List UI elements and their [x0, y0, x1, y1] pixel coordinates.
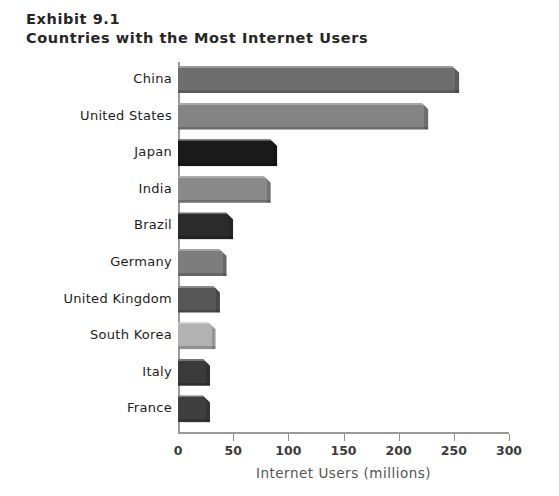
bar-right-edge [424, 103, 428, 130]
x-tick-label-300: 300 [484, 443, 534, 458]
bar-bottom-shade [178, 236, 233, 239]
bar-face [178, 139, 277, 166]
bar-shape [178, 286, 220, 313]
bar-top-highlight [178, 212, 233, 214]
bar-bottom-shade [178, 200, 271, 203]
category-label-brazil: Brazil [12, 217, 172, 232]
bar-rect [178, 66, 459, 93]
bar-rect [178, 322, 216, 349]
bar-bottom-shade [178, 127, 428, 130]
x-tick-label-50: 50 [208, 443, 258, 458]
bar-shape [178, 176, 271, 203]
bar-face [178, 322, 216, 349]
bar-rect [178, 212, 233, 239]
bar-south-korea[interactable] [178, 322, 216, 349]
bar-face [178, 286, 220, 313]
bar-top-highlight [178, 103, 428, 105]
category-label-germany: Germany [12, 254, 172, 269]
bar-top-highlight [178, 176, 271, 178]
bar-india[interactable] [178, 176, 271, 203]
bar-bottom-shade [178, 163, 277, 166]
x-tick-mark-100 [288, 434, 289, 441]
bar-right-edge [267, 176, 271, 203]
category-label-japan: Japan [12, 144, 172, 159]
x-tick-mark-50 [233, 434, 234, 441]
bar-right-edge [455, 66, 459, 93]
bar-rect [178, 139, 277, 166]
x-tick-mark-200 [399, 434, 400, 441]
bar-top-highlight [178, 322, 216, 324]
x-tick-mark-250 [454, 434, 455, 441]
x-tick-label-100: 100 [263, 443, 313, 458]
category-label-india: India [12, 181, 172, 196]
bar-top-highlight [178, 359, 210, 361]
bar-top-highlight [178, 286, 220, 288]
bar-face [178, 176, 271, 203]
bar-germany[interactable] [178, 249, 227, 276]
bar-shape [178, 395, 210, 422]
bar-top-highlight [178, 139, 277, 141]
bar-united-kingdom[interactable] [178, 286, 220, 313]
bar-france[interactable] [178, 395, 210, 422]
bar-face [178, 212, 233, 239]
x-tick-label-200: 200 [374, 443, 424, 458]
bar-shape [178, 249, 227, 276]
bar-bottom-shade [178, 310, 220, 313]
x-tick-label-0: 0 [153, 443, 203, 458]
bar-right-edge [223, 249, 227, 276]
bar-top-highlight [178, 249, 227, 251]
category-label-united-states: United States [12, 108, 172, 123]
bar-right-edge [229, 212, 233, 239]
bar-bottom-shade [178, 90, 459, 93]
x-tick-mark-150 [344, 434, 345, 441]
category-label-france: France [12, 400, 172, 415]
x-tick-label-150: 150 [319, 443, 369, 458]
bar-rect [178, 359, 210, 386]
bar-rect [178, 395, 210, 422]
bar-china[interactable] [178, 66, 459, 93]
bar-bottom-shade [178, 346, 216, 349]
bar-shape [178, 359, 210, 386]
bar-right-edge [212, 322, 216, 349]
bar-rect [178, 286, 220, 313]
bar-shape [178, 212, 233, 239]
category-label-united-kingdom: United Kingdom [12, 291, 172, 306]
bar-right-edge [206, 359, 210, 386]
x-axis-title: Internet Users (millions) [178, 465, 509, 481]
bar-top-highlight [178, 395, 210, 397]
bar-rect [178, 249, 227, 276]
bar-japan[interactable] [178, 139, 277, 166]
bar-right-edge [206, 395, 210, 422]
bar-rect [178, 103, 428, 130]
category-label-china: China [12, 71, 172, 86]
x-tick-label-250: 250 [429, 443, 479, 458]
category-label-italy: Italy [12, 364, 172, 379]
bar-brazil[interactable] [178, 212, 233, 239]
bar-face [178, 103, 428, 130]
bar-shape [178, 103, 428, 130]
bar-top-highlight [178, 66, 459, 68]
bar-right-edge [216, 286, 220, 313]
x-tick-mark-300 [509, 434, 510, 441]
bar-shape [178, 322, 216, 349]
chart-plot-area: ChinaUnited StatesJapanIndiaBrazilGerman… [0, 0, 559, 496]
bar-shape [178, 66, 459, 93]
bar-face [178, 249, 227, 276]
bar-italy[interactable] [178, 359, 210, 386]
bar-united-states[interactable] [178, 103, 428, 130]
bar-rect [178, 176, 271, 203]
bar-right-edge [273, 139, 277, 166]
bar-bottom-shade [178, 273, 227, 276]
category-label-south-korea: South Korea [12, 327, 172, 342]
bar-face [178, 66, 459, 93]
bar-shape [178, 139, 277, 166]
